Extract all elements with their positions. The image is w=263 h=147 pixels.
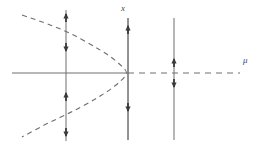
vertical-axis-label: x bbox=[121, 4, 125, 13]
arrow-head bbox=[171, 83, 176, 89]
flow-arrow-down bbox=[63, 43, 68, 52]
flow-arrow-up bbox=[63, 13, 68, 22]
arrow-head bbox=[63, 92, 68, 98]
axes-group bbox=[12, 18, 240, 140]
horizontal-axis-label: μ bbox=[243, 56, 248, 65]
parabola-branch bbox=[22, 15, 127, 137]
flow-arrow-up bbox=[125, 25, 130, 34]
flow-arrow-up bbox=[171, 58, 176, 67]
flow-arrow-down bbox=[63, 128, 68, 137]
flow-arrow-down bbox=[125, 103, 130, 112]
arrow-head bbox=[125, 25, 130, 31]
arrow-head bbox=[63, 47, 68, 53]
flow-arrow-down bbox=[171, 79, 176, 88]
arrow-head bbox=[63, 13, 68, 19]
bifurcation-diagram-figure: x μ bbox=[0, 0, 263, 147]
phase-lines-group bbox=[66, 10, 174, 141]
arrow-head bbox=[125, 107, 130, 113]
parabola-curves-group bbox=[22, 15, 127, 137]
arrow-head bbox=[63, 132, 68, 138]
flow-arrow-up bbox=[63, 92, 68, 101]
arrow-head bbox=[171, 58, 176, 64]
direction-arrows-group bbox=[63, 13, 176, 137]
bifurcation-diagram-canvas bbox=[0, 0, 263, 147]
